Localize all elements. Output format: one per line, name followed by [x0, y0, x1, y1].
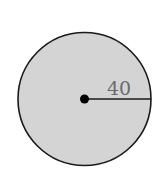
circle-diagram: 40 — [0, 0, 168, 174]
radius-label: 40 — [107, 77, 131, 99]
center-point — [80, 95, 89, 104]
